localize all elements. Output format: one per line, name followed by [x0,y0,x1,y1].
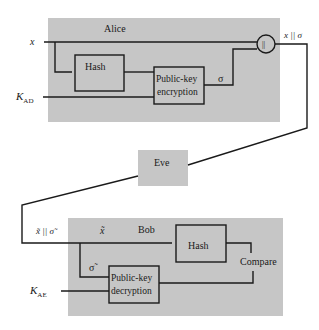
alice-title: Alice [104,23,126,34]
alice-key-label: KAD [15,90,33,105]
alice-sigma-label: σ [218,73,224,84]
eve-title: Eve [154,157,170,168]
bob-decrypt-line1: Public-key [111,273,152,283]
bob-hash-label: Hash [188,240,209,251]
alice-panel [48,18,280,122]
alice-encrypt-line1: Public-key [156,74,197,84]
alice-input-x: x [29,36,35,47]
bob-compare-label: Compare [240,256,277,267]
bob-decrypt-line2: decryption [111,286,152,296]
bob-title: Bob [138,224,155,235]
alice-output-label: x || σ [283,30,302,40]
bob-key-label: KAE [29,284,47,299]
bob-input-label: x̃ || σ̃ [35,226,58,236]
alice-hash-label: Hash [85,61,106,72]
signature-diagram: Alice x KAD Hash Public-key encryption σ… [0,0,319,330]
bob-x-tilde: x̃ [99,225,105,236]
alice-encrypt-line2: encryption [157,87,198,97]
concat-symbol: || [262,40,265,49]
eve-panel [138,150,188,186]
